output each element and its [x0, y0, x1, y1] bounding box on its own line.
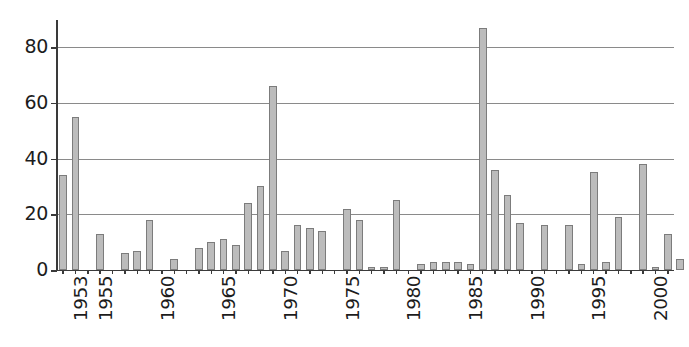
x-tick	[248, 270, 249, 274]
x-tick	[260, 270, 261, 274]
x-axis-tick-label: 1965	[220, 276, 239, 321]
x-tick	[420, 270, 421, 274]
x-axis-tick-label: 1975	[344, 276, 363, 321]
x-axis-labels: 1953195519601965197019751980198519901995…	[0, 0, 689, 347]
x-tick	[161, 270, 162, 274]
x-tick	[87, 270, 88, 274]
x-tick	[186, 270, 187, 274]
x-axis-tick-label: 1953	[72, 276, 91, 321]
x-tick	[544, 270, 545, 274]
x-tick	[519, 270, 520, 274]
x-tick	[667, 270, 668, 274]
x-tick	[272, 270, 273, 274]
x-tick	[482, 270, 483, 274]
x-tick	[75, 270, 76, 274]
x-axis-tick-label: 1970	[282, 276, 301, 321]
x-axis-tick-label: 2000	[652, 276, 671, 321]
x-tick	[531, 270, 532, 274]
x-tick	[149, 270, 150, 274]
x-tick	[433, 270, 434, 274]
x-tick	[223, 270, 224, 274]
x-tick	[642, 270, 643, 274]
x-tick	[457, 270, 458, 274]
x-tick	[322, 270, 323, 274]
x-tick	[593, 270, 594, 274]
x-tick	[396, 270, 397, 274]
x-axis-tick-label: 1990	[529, 276, 548, 321]
x-tick	[618, 270, 619, 274]
x-axis-tick-label: 1980	[405, 276, 424, 321]
x-tick	[137, 270, 138, 274]
x-tick	[198, 270, 199, 274]
x-tick	[285, 270, 286, 274]
x-axis-tick-label: 1995	[590, 276, 609, 321]
x-tick	[507, 270, 508, 274]
x-tick	[568, 270, 569, 274]
x-tick	[174, 270, 175, 274]
x-tick	[359, 270, 360, 274]
x-tick	[408, 270, 409, 274]
x-tick	[581, 270, 582, 274]
x-tick	[334, 270, 335, 274]
x-tick	[235, 270, 236, 274]
bar-chart: 020406080 195319551960196519701975198019…	[0, 0, 689, 347]
x-tick	[309, 270, 310, 274]
x-axis-tick-label: 1955	[97, 276, 116, 321]
x-axis-tick-label: 1960	[159, 276, 178, 321]
x-tick	[494, 270, 495, 274]
x-tick	[371, 270, 372, 274]
x-tick	[470, 270, 471, 274]
x-tick	[124, 270, 125, 274]
x-axis-tick-label: 1985	[467, 276, 486, 321]
x-tick	[445, 270, 446, 274]
x-tick	[346, 270, 347, 274]
x-tick	[297, 270, 298, 274]
x-tick	[556, 270, 557, 274]
x-tick	[99, 270, 100, 274]
x-tick	[605, 270, 606, 274]
x-tick	[112, 270, 113, 274]
x-tick	[383, 270, 384, 274]
x-tick	[655, 270, 656, 274]
x-tick	[630, 270, 631, 274]
x-tick	[62, 270, 63, 274]
x-tick	[211, 270, 212, 274]
